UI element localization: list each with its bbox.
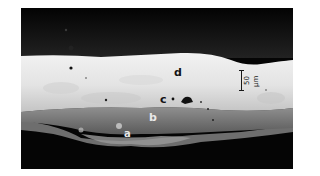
scale-bar-label: 50 µm	[243, 72, 263, 90]
layer-label-a: a	[124, 129, 131, 139]
scale-bar	[241, 70, 242, 91]
layer-label-c: c	[160, 94, 167, 105]
layer-label-d: d	[174, 67, 182, 78]
micrograph: d c b a 50 µm	[21, 8, 293, 169]
layer-label-b: b	[149, 112, 157, 123]
